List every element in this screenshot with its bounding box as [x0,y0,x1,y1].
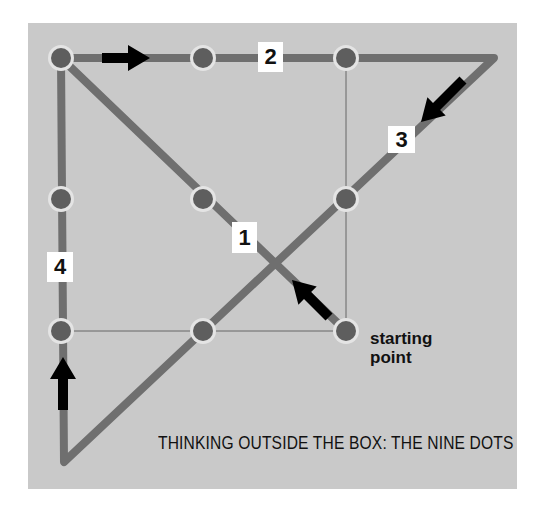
point-text: point [370,348,432,367]
dot-r2-c1 [193,321,213,341]
dot-r1-c2 [336,189,356,209]
dot-r0-c1 [193,48,213,68]
starting-point-label: starting point [370,329,432,367]
dot-r2-c2 [336,321,356,341]
starting-text: starting [370,329,432,348]
arrow-step-1-icon [292,280,333,321]
diagram-title: THINKING OUTSIDE THE BOX: THE NINE DOTS [158,432,514,454]
arrow-step-2-icon [102,45,150,71]
step-label-3: 3 [388,126,415,153]
step-label-4: 4 [47,252,73,282]
arrow-step-3-icon [421,77,467,123]
dot-r1-c1 [193,189,213,209]
arrow-step-4-icon [50,357,76,410]
step-label-1: 1 [232,222,257,253]
dot-r0-c2 [336,48,356,68]
dot-r0-c0 [51,48,71,68]
dot-r2-c0 [51,321,71,341]
dot-r1-c0 [51,189,71,209]
step-label-2: 2 [258,42,283,72]
